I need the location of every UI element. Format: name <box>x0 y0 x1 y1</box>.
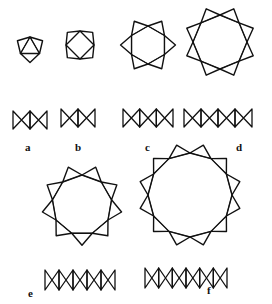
panel-label-d: d <box>236 141 242 153</box>
panel-label-a: a <box>25 141 31 153</box>
panel-label-e: e <box>28 287 33 299</box>
panel-label-f: f <box>207 284 211 296</box>
panel-label-c: c <box>145 141 150 153</box>
panel-label-b: b <box>75 141 81 153</box>
ring-diagram <box>0 0 272 304</box>
